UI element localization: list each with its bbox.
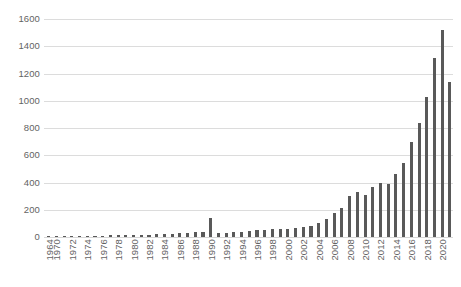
bar-series (44, 19, 453, 237)
bar (279, 229, 282, 237)
bar (101, 236, 104, 237)
x-axis-tick-label: 2020 (437, 239, 448, 261)
x-axis-tick-label: 1972 (67, 239, 78, 261)
bar (325, 219, 328, 237)
x-axis-tick-label: 2010 (360, 239, 371, 261)
bar (201, 232, 204, 237)
bar (340, 208, 343, 237)
bar (232, 232, 235, 237)
x-axis-tick-label: 1988 (190, 239, 201, 261)
bar (225, 233, 228, 237)
bar (55, 236, 58, 237)
y-axis-tick-label: 1000 (0, 96, 40, 106)
bar (117, 235, 120, 237)
bar (155, 234, 158, 237)
bar (171, 234, 174, 237)
x-axis-tick-label: 1986 (175, 239, 186, 261)
y-axis-tick-label: 400 (0, 178, 40, 188)
y-axis-tick-label: 800 (0, 123, 40, 133)
bar (70, 236, 73, 237)
x-axis-tick-label: 2000 (283, 239, 294, 261)
x-axis-tick-label: 1996 (252, 239, 263, 261)
x-axis-tick-label: 1982 (144, 239, 155, 261)
x-axis-tick-label: 1994 (237, 239, 248, 261)
bar (178, 233, 181, 237)
y-axis-tick-label: 1200 (0, 69, 40, 79)
bar (387, 184, 390, 237)
bar (371, 187, 374, 237)
x-axis: 1964197019721974197619781980198219841986… (44, 239, 453, 287)
y-axis-tick-label: 1400 (0, 41, 40, 51)
x-axis-tick-label: 1974 (82, 239, 93, 261)
bar (402, 163, 405, 237)
bar (217, 233, 220, 237)
bar (63, 236, 66, 237)
x-axis-tick-label: 1990 (206, 239, 217, 261)
bar (132, 235, 135, 237)
bar-chart: 02004006008001000120014001600 1964197019… (0, 0, 461, 287)
x-axis-tick-label: 2008 (345, 239, 356, 261)
bar (124, 235, 127, 237)
bar (147, 235, 150, 237)
x-axis-tick-label: 1998 (267, 239, 278, 261)
bar (294, 228, 297, 237)
bar (379, 183, 382, 238)
x-axis-tick-label: 2018 (422, 239, 433, 261)
bar (47, 236, 50, 237)
bar (140, 235, 143, 237)
bar (240, 232, 243, 237)
bar (271, 229, 274, 237)
bar (209, 218, 212, 237)
bar (194, 232, 197, 237)
y-axis-tick-label: 200 (0, 205, 40, 215)
plot-area (44, 19, 453, 237)
x-axis-tick-label: 2014 (391, 239, 402, 261)
x-axis-tick-label: 2006 (329, 239, 340, 261)
x-axis-tick-label: 1984 (159, 239, 170, 261)
bar (441, 30, 444, 237)
x-axis-tick-label: 2016 (406, 239, 417, 261)
bar (394, 174, 397, 237)
bar (186, 233, 189, 237)
bar (93, 236, 96, 237)
bar (364, 195, 367, 237)
bar (356, 192, 359, 237)
x-axis-tick-label: 2002 (298, 239, 309, 261)
bar (248, 231, 251, 237)
bar (163, 234, 166, 237)
bar (425, 97, 428, 237)
bar (109, 235, 112, 237)
bar (348, 196, 351, 237)
x-axis-tick-label: 2004 (314, 239, 325, 261)
y-axis: 02004006008001000120014001600 (0, 0, 40, 287)
x-axis-tick-label: 1992 (221, 239, 232, 261)
bar (309, 226, 312, 237)
bar (78, 236, 81, 237)
bar (86, 236, 89, 237)
bar (255, 230, 258, 237)
axis-baseline (44, 237, 453, 238)
bar (333, 213, 336, 237)
bar (433, 58, 436, 237)
x-axis-tick-label: 2012 (375, 239, 386, 261)
x-axis-tick-label: 1976 (98, 239, 109, 261)
bar (286, 229, 289, 237)
y-axis-tick-label: 600 (0, 150, 40, 160)
bar (418, 123, 421, 237)
x-axis-tick-label: 1978 (113, 239, 124, 261)
bar (410, 142, 413, 237)
bar (302, 227, 305, 237)
y-axis-tick-label: 1600 (0, 14, 40, 24)
x-axis-tick-label: 1970 (51, 239, 62, 261)
y-axis-tick-label: 0 (0, 232, 40, 242)
x-axis-tick-label: 1980 (129, 239, 140, 261)
bar (448, 82, 451, 237)
bar (317, 223, 320, 237)
bar (263, 230, 266, 237)
